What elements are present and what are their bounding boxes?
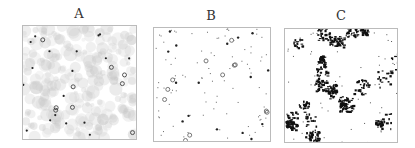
panel-c-clusters	[285, 29, 397, 142]
panel-c	[284, 28, 398, 143]
panel-c-label: C	[326, 8, 356, 23]
panel-a	[22, 25, 137, 140]
panel-a-texture	[23, 26, 136, 139]
panel-a-label: A	[64, 6, 94, 21]
panel-b-label: B	[196, 8, 226, 23]
panel-b	[153, 27, 271, 142]
panel-b-dots	[154, 28, 270, 141]
